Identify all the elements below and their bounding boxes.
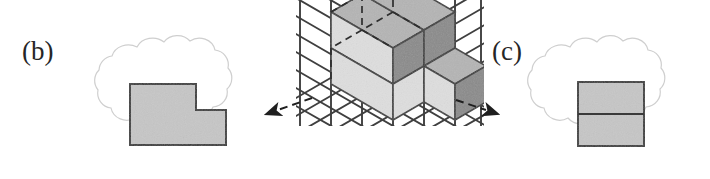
figure-container: (b) (c) Side view Front view [0,0,710,179]
figure-artwork [0,0,710,179]
front-view-square [578,82,644,146]
arrow-to-side-view [278,98,312,110]
